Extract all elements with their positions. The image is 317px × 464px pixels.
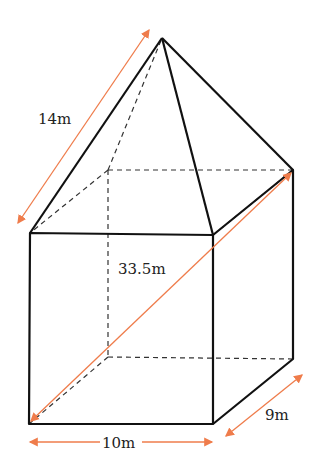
diagonal-arrow [31,173,291,421]
composite-solid-diagram: 14m 33.5m 10m 9m [0,0,317,464]
dimension-arrows [18,30,302,442]
hidden-edge-left-top [30,170,108,233]
depth-label: 9m [265,406,289,424]
slant-edge-label: 14m [38,110,71,128]
pyramid-edge-left [30,38,162,233]
visible-edges [29,38,293,424]
width-label: 10m [102,434,135,452]
hidden-edge-left-bottom [29,357,108,424]
right-face [213,170,293,424]
pyramid-edge-right [162,38,293,170]
hidden-edges [29,38,293,424]
pyramid-edge-front [162,38,213,235]
hidden-edge-back-bottom [108,357,293,359]
diagonal-label: 33.5m [118,260,166,278]
